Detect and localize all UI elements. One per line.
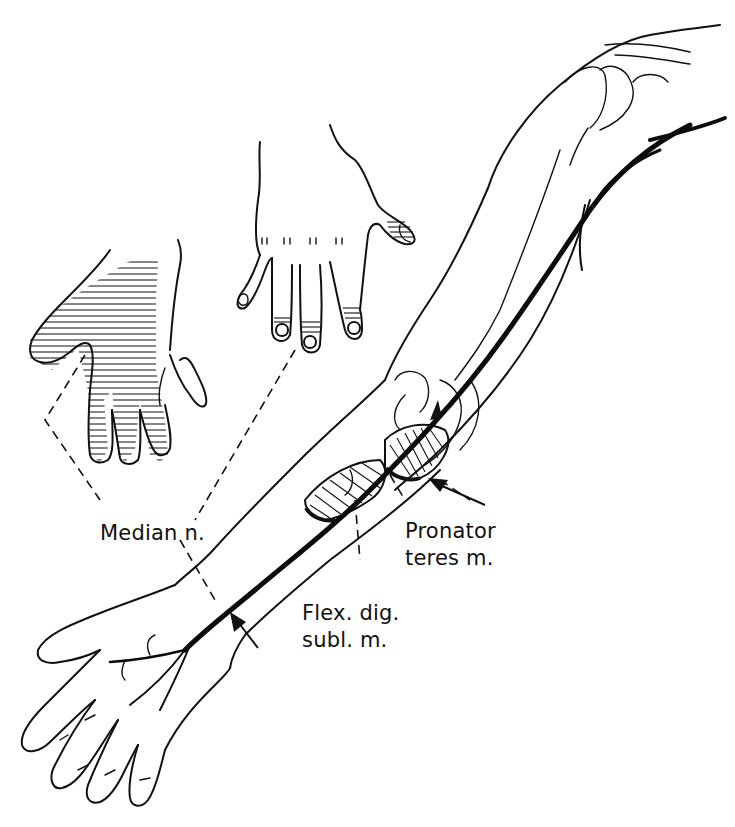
pronator-teres-label-line2: teres m. <box>405 545 496 572</box>
flexor-digitorum-label: Flex. dig. subl. m. <box>302 600 399 654</box>
flexor-digitorum-label-line2: subl. m. <box>302 627 399 654</box>
dorsal-hand-inset <box>238 125 415 353</box>
pronator-teres-label: Pronator teres m. <box>405 518 496 572</box>
median-nerve-label: Median n. <box>100 520 205 547</box>
flexor-digitorum-label-line1: Flex. dig. <box>302 600 399 627</box>
lower-hand <box>22 585 230 806</box>
median-nerve-label-text: Median n. <box>100 520 205 547</box>
pronator-arrow <box>428 478 485 505</box>
median-nerve <box>110 118 725 710</box>
wrist-arrow <box>230 612 258 648</box>
median-nerve-illustration <box>0 0 735 827</box>
shoulder-outline <box>488 25 720 188</box>
palmar-hand-inset <box>20 240 206 464</box>
pronator-teres-label-line1: Pronator <box>405 518 496 545</box>
